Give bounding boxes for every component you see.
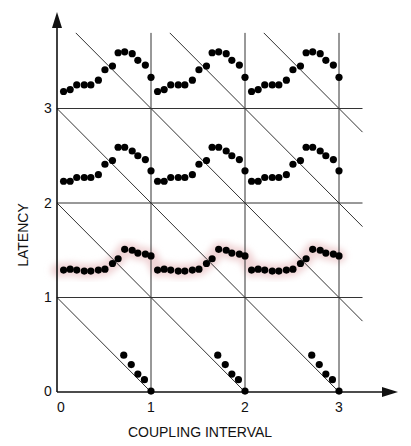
data-point bbox=[115, 255, 122, 262]
data-point bbox=[248, 266, 255, 273]
data-point bbox=[255, 266, 262, 273]
data-point bbox=[308, 352, 315, 359]
data-point bbox=[134, 370, 141, 377]
data-point bbox=[115, 144, 122, 151]
data-point bbox=[203, 157, 210, 164]
data-point bbox=[134, 152, 141, 159]
data-point bbox=[241, 252, 248, 259]
data-point bbox=[297, 157, 304, 164]
data-point bbox=[181, 81, 188, 88]
y-tick-2: 2 bbox=[44, 195, 52, 211]
data-point bbox=[167, 81, 174, 88]
data-point bbox=[322, 57, 329, 64]
data-point bbox=[195, 161, 202, 168]
data-point bbox=[330, 61, 337, 68]
data-point bbox=[309, 144, 316, 151]
y-axis-arrow-icon bbox=[52, 12, 62, 28]
data-point bbox=[73, 266, 80, 273]
data-point bbox=[73, 174, 80, 181]
data-point bbox=[275, 174, 282, 181]
data-point bbox=[134, 249, 141, 256]
data-point bbox=[189, 171, 196, 178]
data-point bbox=[67, 266, 74, 273]
diagonal-lines bbox=[57, 33, 363, 392]
data-point bbox=[109, 260, 116, 267]
data-point bbox=[228, 249, 235, 256]
data-point bbox=[335, 74, 342, 81]
data-point bbox=[81, 174, 88, 181]
data-point bbox=[261, 174, 268, 181]
data-point bbox=[209, 255, 216, 262]
x-tick-3: 3 bbox=[335, 399, 343, 415]
data-point bbox=[255, 86, 262, 93]
data-point bbox=[209, 144, 216, 151]
data-point bbox=[142, 156, 149, 163]
data-point bbox=[203, 260, 210, 267]
data-point bbox=[175, 174, 182, 181]
data-point bbox=[73, 81, 80, 88]
data-point bbox=[269, 81, 276, 88]
data-point bbox=[283, 171, 290, 178]
x-axis-label: COUPLING INTERVAL bbox=[128, 424, 272, 440]
data-point bbox=[142, 61, 149, 68]
data-point bbox=[101, 161, 108, 168]
data-point bbox=[330, 156, 337, 163]
data-point bbox=[121, 48, 128, 55]
data-point bbox=[60, 266, 67, 273]
data-point bbox=[128, 361, 135, 368]
data-point bbox=[181, 174, 188, 181]
plot-area: 0 1 2 3 0 1 2 3 COUPLING INTERVAL LATENC… bbox=[0, 0, 411, 446]
data-point bbox=[261, 81, 268, 88]
data-point bbox=[195, 266, 202, 273]
data-point bbox=[303, 49, 310, 56]
data-point bbox=[228, 152, 235, 159]
data-point bbox=[329, 376, 336, 383]
data-point bbox=[161, 86, 168, 93]
data-point bbox=[275, 267, 282, 274]
data-point bbox=[322, 370, 329, 377]
data-point bbox=[109, 157, 116, 164]
data-point bbox=[154, 178, 161, 185]
y-tick-3: 3 bbox=[44, 100, 52, 116]
data-point bbox=[269, 267, 276, 274]
data-point bbox=[261, 266, 268, 273]
data-point bbox=[134, 57, 141, 64]
data-point bbox=[335, 167, 342, 174]
data-point bbox=[289, 66, 296, 73]
y-tick-1: 1 bbox=[44, 289, 52, 305]
x-tick-1: 1 bbox=[147, 399, 155, 415]
data-point bbox=[236, 156, 243, 163]
data-point bbox=[161, 266, 168, 273]
data-point bbox=[87, 267, 94, 274]
data-point bbox=[235, 376, 242, 383]
data-point bbox=[203, 62, 210, 69]
y-tick-0: 0 bbox=[44, 383, 52, 399]
data-point bbox=[189, 77, 196, 84]
data-point bbox=[322, 152, 329, 159]
data-point bbox=[154, 88, 161, 95]
data-point bbox=[317, 50, 324, 57]
data-point bbox=[215, 246, 222, 253]
data-point bbox=[335, 252, 342, 259]
data-point bbox=[241, 167, 248, 174]
data-point bbox=[129, 50, 136, 57]
data-point bbox=[222, 361, 229, 368]
data-point bbox=[81, 81, 88, 88]
data-point bbox=[209, 49, 216, 56]
data-point bbox=[228, 370, 235, 377]
data-point bbox=[161, 178, 168, 185]
data-point bbox=[95, 171, 102, 178]
data-point bbox=[303, 255, 310, 262]
data-point bbox=[255, 178, 262, 185]
data-point bbox=[228, 57, 235, 64]
data-point bbox=[195, 66, 202, 73]
data-point bbox=[269, 174, 276, 181]
data-point bbox=[129, 147, 136, 154]
data-point bbox=[283, 77, 290, 84]
data-point bbox=[248, 88, 255, 95]
data-point bbox=[141, 376, 148, 383]
data-point bbox=[322, 249, 329, 256]
data-point bbox=[289, 161, 296, 168]
chart: 0 1 2 3 0 1 2 3 COUPLING INTERVAL LATENC… bbox=[0, 0, 411, 446]
data-point bbox=[67, 178, 74, 185]
